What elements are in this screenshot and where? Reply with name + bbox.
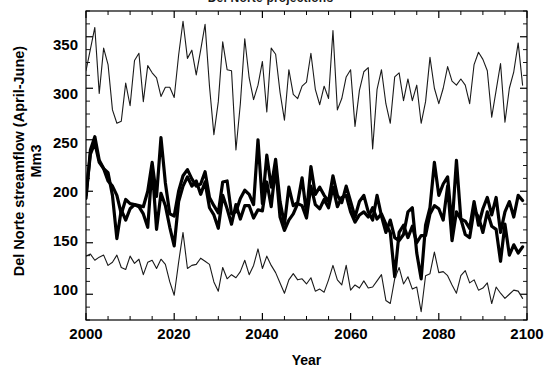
series-upper-bound [86,21,523,150]
series-lower-bound [86,232,523,311]
series-lines [86,21,523,311]
